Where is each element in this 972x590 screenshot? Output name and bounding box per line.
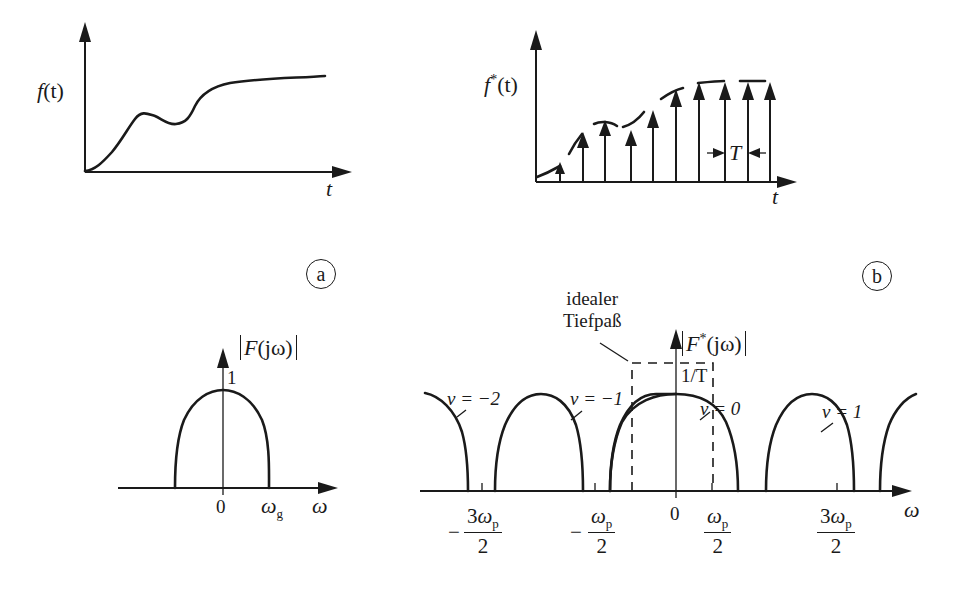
nu-label-0: ν = 0	[700, 398, 740, 420]
nu-pointer	[821, 423, 833, 432]
envelope-segment	[698, 81, 724, 83]
signal-curve	[85, 76, 325, 171]
tick-neg-sign: −	[570, 520, 582, 545]
y-axis-arrow-icon	[530, 30, 542, 50]
arrow-left-icon	[748, 148, 760, 158]
y-label-arg: (jω)	[257, 335, 292, 360]
ideal-lowpass-label: idealer Tiefpaß	[563, 288, 621, 332]
y-axis-arrow-icon	[670, 329, 682, 349]
x-axis-label: ω	[312, 493, 328, 519]
filter-label-line1: idealer	[563, 288, 621, 310]
tick-3wp-over-2: 3ωp 2	[817, 506, 855, 557]
spectrum-y-label: F(jω)	[240, 335, 297, 361]
envelope-segment	[661, 88, 683, 99]
origin-label: 0	[216, 496, 226, 518]
arrow-right-icon	[713, 148, 725, 158]
x-axis-label: t	[772, 184, 778, 210]
y-axis-label: f*(t)	[484, 72, 518, 98]
x-axis-arrow-icon	[777, 176, 797, 188]
x-axis-arrow-icon	[332, 166, 352, 178]
x-axis-label: t	[326, 176, 332, 202]
y-label-arg: (jω)	[706, 331, 741, 356]
spectrum-arch-partial-right	[880, 394, 916, 491]
panel-marker-b: b	[862, 261, 892, 291]
period-label: T	[729, 140, 741, 166]
tick-wp-over-2: ωp 2	[704, 506, 731, 557]
nu-label-1: ν = 1	[822, 401, 862, 423]
peak-value-label: 1/T	[681, 365, 707, 387]
y-axis-label: f(t)	[37, 78, 64, 104]
x-axis-label: ω	[904, 497, 920, 523]
nu-label-minus-2: ν = −2	[447, 388, 500, 410]
y-label-fn: F	[686, 331, 699, 356]
plot-f-of-t	[79, 22, 352, 178]
y-label-fn: F	[244, 335, 257, 360]
plot-f-star-of-t	[530, 30, 797, 188]
nu-label-minus-1: ν = −1	[570, 388, 623, 410]
filter-label-pointer	[600, 343, 628, 361]
x-axis-arrow-icon	[892, 485, 912, 497]
spectrum-arch	[175, 390, 269, 488]
envelope-segment	[623, 112, 644, 127]
y-label-arg: (t)	[497, 72, 518, 97]
tick-minus-3wp-over-2: 3ωp 2	[464, 506, 502, 557]
omega-g-label: ωg	[261, 493, 283, 522]
tick-minus-wp-over-2: ωp 2	[588, 506, 615, 557]
panel-marker-a: a	[306, 259, 336, 289]
spectrum-y-label: F*(jω)	[682, 331, 746, 357]
nu-pointer	[457, 410, 466, 417]
x-ticks	[482, 483, 837, 491]
y-label-arg: (t)	[43, 78, 64, 103]
y-axis-arrow-icon	[217, 348, 229, 368]
peak-value-label: 1	[227, 367, 237, 389]
filter-label-line2: Tiefpaß	[563, 310, 621, 332]
origin-label: 0	[670, 503, 680, 525]
y-axis-arrow-icon	[79, 22, 91, 42]
tick-neg-sign: −	[448, 520, 460, 545]
